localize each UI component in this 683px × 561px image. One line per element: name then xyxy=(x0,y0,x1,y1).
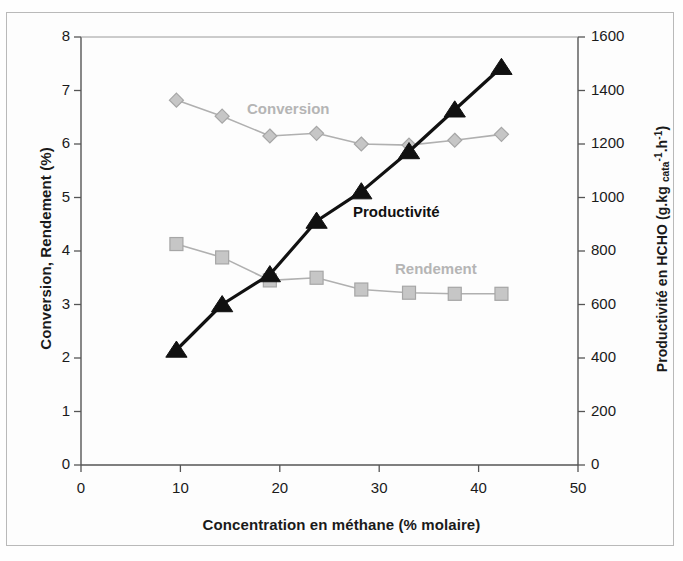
x-tick-label: 10 xyxy=(160,479,200,496)
y-right-tick-label: 400 xyxy=(591,348,637,365)
x-tick-label: 50 xyxy=(558,479,598,496)
data-point-diamond xyxy=(448,133,462,147)
series-label-rendement: Rendement xyxy=(395,260,477,277)
x-tick-label: 40 xyxy=(459,479,499,496)
y-right-title-sup2: -1 xyxy=(653,131,664,140)
data-point-diamond xyxy=(310,126,324,140)
y-left-tick-label: 0 xyxy=(40,455,70,472)
x-axis-title: Concentration en méthane (% molaire) xyxy=(0,516,683,533)
data-point-square xyxy=(495,287,508,300)
y-axis-right-title: Productivité en HCHO (g.kg cata-1.h-1) xyxy=(653,39,671,459)
y-left-tick-label: 5 xyxy=(40,188,70,205)
y-right-tick-label: 800 xyxy=(591,241,637,258)
y-right-tick-label: 1600 xyxy=(591,27,637,44)
chart-plot-area xyxy=(0,0,683,561)
y-right-title-lead: Productivité en HCHO (g.kg xyxy=(654,182,670,372)
y-left-tick-label: 8 xyxy=(40,27,70,44)
y-right-tick-label: 1200 xyxy=(591,134,637,151)
y-right-tick-label: 600 xyxy=(591,295,637,312)
y-left-tick-label: 6 xyxy=(40,134,70,151)
y-right-tick-label: 1000 xyxy=(591,188,637,205)
x-tick-label: 20 xyxy=(260,479,300,496)
data-point-diamond xyxy=(494,127,508,141)
y-left-tick-label: 4 xyxy=(40,241,70,258)
series-conversion xyxy=(169,93,508,152)
y-right-title-mid: .h xyxy=(654,140,670,153)
x-tick-label: 30 xyxy=(359,479,399,496)
y-right-tick-label: 200 xyxy=(591,402,637,419)
y-right-title-sub: cata xyxy=(660,162,671,183)
data-point-diamond xyxy=(169,93,183,107)
data-point-square xyxy=(310,271,323,284)
data-point-triangle xyxy=(491,58,512,74)
y-left-tick-label: 1 xyxy=(40,402,70,419)
data-point-diamond xyxy=(215,109,229,123)
figure-container: Concentration en méthane (% molaire) Con… xyxy=(0,0,683,561)
series-label-productivite: Productivité xyxy=(353,203,440,220)
data-point-square xyxy=(216,251,229,264)
y-right-title-sup1: -1 xyxy=(653,152,664,161)
data-point-diamond xyxy=(354,137,368,151)
y-right-title-tail: ) xyxy=(654,126,670,131)
x-tick-label: 0 xyxy=(61,479,101,496)
y-left-tick-label: 7 xyxy=(40,81,70,98)
y-right-tick-label: 0 xyxy=(591,455,637,472)
y-right-tick-label: 1400 xyxy=(591,81,637,98)
data-point-square xyxy=(448,287,461,300)
y-left-tick-label: 2 xyxy=(40,348,70,365)
data-point-diamond xyxy=(263,129,277,143)
data-point-square xyxy=(170,238,183,251)
y-left-tick-label: 3 xyxy=(40,295,70,312)
data-point-square xyxy=(355,283,368,296)
data-point-square xyxy=(403,286,416,299)
series-label-conversion: Conversion xyxy=(247,100,330,117)
series-productivit xyxy=(166,58,512,357)
